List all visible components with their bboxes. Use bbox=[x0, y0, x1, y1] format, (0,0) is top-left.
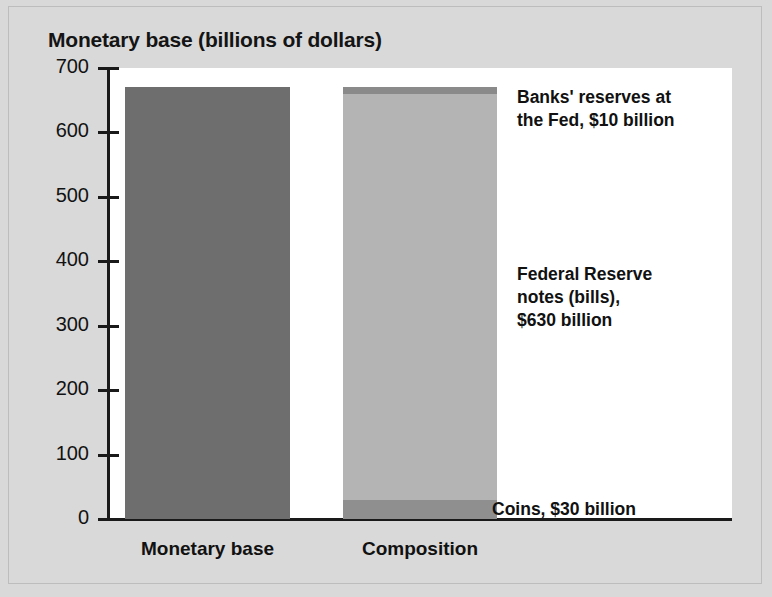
annotation-federal-reserve-notes-line-2: notes (bills), bbox=[517, 286, 732, 309]
bar-monetary-base bbox=[125, 87, 290, 519]
bar-composition bbox=[343, 87, 497, 519]
y-tick-mark-300 bbox=[98, 325, 119, 328]
y-tick-mark-700 bbox=[98, 67, 119, 70]
y-tick-label-700: 700 bbox=[9, 55, 89, 78]
annotation-bank-reserves-line-1: Banks' reserves at bbox=[517, 86, 732, 109]
y-tick-label-500: 500 bbox=[9, 184, 89, 207]
y-tick-mark-500 bbox=[98, 196, 119, 199]
annotation-federal-reserve-notes-line-3: $630 billion bbox=[517, 309, 732, 332]
annotation-bank-reserves: Banks' reserves at the Fed, $10 billion bbox=[517, 86, 732, 132]
y-tick-label-0: 0 bbox=[9, 506, 89, 529]
chart-title: Monetary base (billions of dollars) bbox=[48, 28, 382, 52]
annotation-coins-line-1: Coins, $30 billion bbox=[492, 498, 732, 521]
annotation-bank-reserves-line-2: the Fed, $10 billion bbox=[517, 109, 732, 132]
y-tick-mark-400 bbox=[98, 260, 119, 263]
y-tick-mark-0 bbox=[98, 518, 119, 521]
annotation-federal-reserve-notes: Federal Reserve notes (bills), $630 bill… bbox=[517, 263, 732, 332]
y-tick-label-400: 400 bbox=[9, 248, 89, 271]
y-tick-label-300: 300 bbox=[9, 313, 89, 336]
annotation-federal-reserve-notes-line-1: Federal Reserve bbox=[517, 263, 732, 286]
y-tick-mark-100 bbox=[98, 454, 119, 457]
bar-segment-federal-reserve-notes-bills bbox=[343, 94, 497, 500]
x-axis-label-monetary-base: Monetary base bbox=[125, 538, 290, 560]
y-tick-label-600: 600 bbox=[9, 119, 89, 142]
bar-segment-coins bbox=[343, 500, 497, 519]
y-tick-label-100: 100 bbox=[9, 442, 89, 465]
y-tick-mark-200 bbox=[98, 389, 119, 392]
x-axis-label-composition: Composition bbox=[336, 538, 504, 560]
y-tick-label-200: 200 bbox=[9, 377, 89, 400]
bar-segment-banks-reserves-at-the-fed bbox=[343, 87, 497, 93]
annotation-coins: Coins, $30 billion bbox=[492, 498, 732, 521]
y-tick-mark-600 bbox=[98, 131, 119, 134]
